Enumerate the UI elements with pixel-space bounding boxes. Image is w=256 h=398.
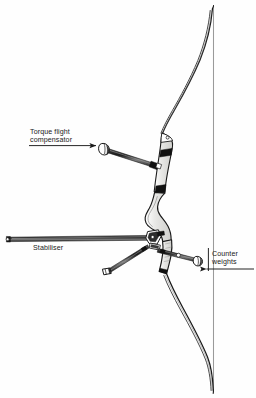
bow-diagram-figure: Torque flight compensator Stabiliser Cou… <box>0 0 256 398</box>
v-bar-right-weight <box>193 256 202 266</box>
compensator-rod <box>107 149 162 170</box>
stabiliser-end-cap <box>6 236 10 242</box>
lower-limb <box>164 274 214 394</box>
bow-line-drawing <box>0 0 256 398</box>
stabiliser-rod <box>6 235 150 242</box>
label-stabiliser: Stabiliser <box>33 244 63 252</box>
compensator-weight <box>99 143 110 155</box>
v-bar-left-rod <box>109 245 149 272</box>
label-torque-flight-compensator: Torque flight compensator <box>30 128 72 145</box>
v-bar-left-weight <box>102 268 111 275</box>
label-counter-line1: Counter <box>212 250 238 258</box>
label-torque-line1: Torque flight <box>30 128 72 136</box>
upper-limb <box>161 6 214 134</box>
label-counter-line2: weights <box>212 258 238 266</box>
label-counter-weights: Counter weights <box>212 250 238 267</box>
label-torque-line2: compensator <box>30 136 72 144</box>
label-stabiliser-line1: Stabiliser <box>33 244 63 252</box>
